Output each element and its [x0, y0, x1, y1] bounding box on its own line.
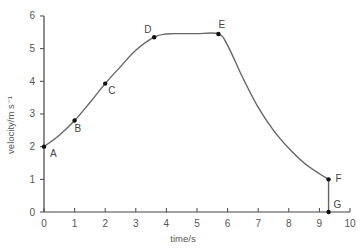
x-tick-label: 8	[286, 218, 292, 229]
point-label: B	[75, 123, 82, 134]
ticks: 0123456789100123456	[29, 10, 356, 229]
velocity-curve	[44, 33, 329, 212]
x-tick-label: 4	[164, 218, 170, 229]
y-tick-label: 5	[29, 43, 35, 54]
point-label: D	[144, 24, 151, 35]
point-f	[326, 177, 330, 181]
velocity-time-chart: 0123456789100123456 ABCDEFG time/s veloc…	[0, 0, 364, 252]
point-a	[42, 144, 46, 148]
x-tick-label: 5	[194, 218, 200, 229]
x-tick-label: 10	[344, 218, 356, 229]
point-e	[216, 32, 220, 36]
x-tick-label: 1	[72, 218, 78, 229]
data-points: ABCDEFG	[42, 19, 342, 214]
point-c	[103, 81, 107, 85]
x-axis-label: time/s	[170, 233, 196, 244]
y-tick-label: 3	[29, 108, 35, 119]
x-tick-label: 9	[317, 218, 323, 229]
point-g	[326, 210, 330, 214]
point-label: C	[108, 85, 115, 96]
y-axis-label: velocity/m s⁻¹	[5, 96, 16, 154]
point-d	[152, 35, 156, 39]
point-label: A	[50, 148, 57, 159]
x-tick-label: 2	[102, 218, 108, 229]
point-label: E	[218, 19, 225, 30]
axes	[44, 16, 350, 212]
y-tick-label: 1	[29, 174, 35, 185]
y-tick-label: 6	[29, 10, 35, 21]
y-tick-label: 4	[29, 76, 35, 87]
x-tick-label: 7	[255, 218, 261, 229]
point-label: G	[334, 199, 342, 210]
x-tick-label: 0	[41, 218, 47, 229]
x-tick-label: 3	[133, 218, 139, 229]
x-tick-label: 6	[225, 218, 231, 229]
y-tick-label: 0	[29, 207, 35, 218]
point-label: F	[336, 173, 342, 184]
y-tick-label: 2	[29, 141, 35, 152]
